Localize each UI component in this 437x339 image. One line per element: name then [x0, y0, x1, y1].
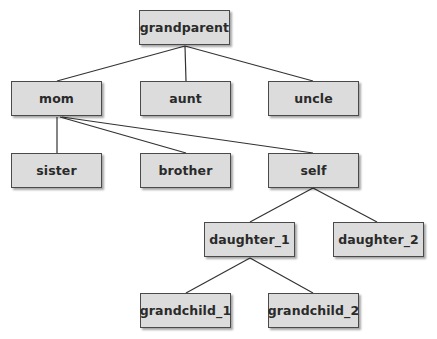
node-label: daughter_1 [209, 232, 290, 247]
node-label: grandchild_1 [140, 303, 231, 318]
edge-self-daughter1 [250, 188, 313, 222]
edge-mom-brother [60, 117, 186, 153]
node-label: mom [39, 91, 74, 106]
node-label: self [300, 163, 326, 178]
node-label: daughter_2 [338, 232, 419, 247]
node-mom: mom [11, 81, 102, 116]
edge-daughter1-grandchild1 [186, 258, 250, 293]
edge-grandparent-uncle [185, 46, 313, 81]
edge-grandparent-mom [57, 46, 185, 81]
node-grandchild-2: grandchild_2 [268, 293, 359, 328]
node-label: grandparent [140, 20, 229, 35]
node-daughter-2: daughter_2 [333, 222, 424, 257]
node-self: self [268, 153, 359, 188]
node-grandparent: grandparent [139, 10, 230, 45]
node-label: sister [36, 163, 76, 178]
node-grandchild-1: grandchild_1 [140, 293, 231, 328]
node-label: aunt [169, 91, 202, 106]
edge-grandparent-aunt [185, 46, 186, 81]
node-sister: sister [11, 153, 102, 188]
node-daughter-1: daughter_1 [204, 222, 295, 257]
node-label: grandchild_2 [268, 303, 359, 318]
node-brother: brother [140, 153, 231, 188]
edge-daughter1-grandchild2 [250, 258, 313, 293]
edge-self-daughter2 [313, 188, 377, 222]
edge-mom-self [62, 117, 313, 153]
family-tree-diagram: grandparent mom aunt uncle sister brothe… [0, 0, 437, 339]
node-uncle: uncle [268, 81, 359, 116]
node-label: uncle [294, 91, 332, 106]
node-aunt: aunt [140, 81, 231, 116]
node-label: brother [159, 163, 213, 178]
